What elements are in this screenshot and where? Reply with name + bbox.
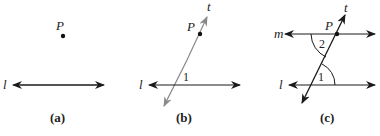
line-l-label: l [3,77,7,92]
angle-1-label: 1 [318,70,324,84]
line-l-label: l [139,77,143,92]
point-p-label: P [324,18,333,33]
parallel-lines-diagram: P l (a) t P l 1 (b) t m P 2 l 1 [0,0,380,136]
point-p-label: P [55,18,64,33]
figure-a: P l (a) [3,18,104,125]
caption-b: (b) [176,110,192,125]
figure-c: t m P 2 l 1 (c) [274,0,375,125]
transversal-t-label: t [344,0,348,15]
line-l-label: l [279,77,283,92]
caption-c: (c) [320,110,334,125]
point-p [335,32,339,36]
line-m-label: m [274,26,283,41]
caption-a: (a) [50,110,65,125]
angle-2-label: 2 [319,37,325,51]
point-p-label: P [186,19,195,34]
transversal-t-label: t [207,0,211,14]
figure-b: t P l 1 (b) [139,0,240,125]
angle-1-label: 1 [183,70,189,84]
point-p [61,34,65,38]
point-p [198,32,202,36]
